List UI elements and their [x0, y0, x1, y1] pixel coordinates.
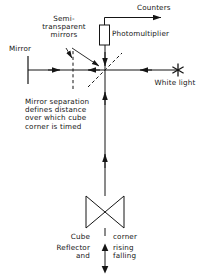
cube-corner-reflector: [86, 196, 124, 228]
label-cube: Cube: [52, 233, 90, 241]
optical-schematic-diagram: [0, 0, 201, 280]
label-rising-falling: rising falling: [113, 244, 165, 260]
travel-double-arrow-icon: [102, 244, 109, 274]
label-mirror-separation-note: Mirror separation defines distance over …: [25, 98, 111, 131]
label-white-light: White light: [150, 79, 200, 87]
label-mirror: Mirror: [9, 45, 49, 53]
counters-lead-line: [105, 18, 162, 26]
label-reflector-and: Reflector and: [30, 244, 90, 260]
photomultiplier-box: [100, 25, 110, 45]
label-counters: Counters: [137, 4, 199, 12]
label-semi-transparent-mirrors: Semi- transparent mirrors: [36, 15, 92, 40]
leader-line-to-diagonal-mirror: [72, 48, 99, 66]
label-corner: corner: [113, 233, 157, 241]
leader-line-to-vertical-mirror: [66, 48, 72, 58]
label-photomultiplier: Photomultiplier: [112, 30, 201, 38]
